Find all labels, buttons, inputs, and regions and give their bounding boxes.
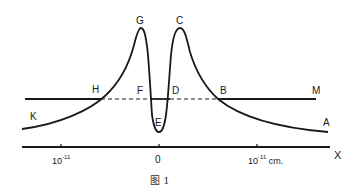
label-f: F: [137, 86, 143, 96]
label-b: B: [220, 86, 227, 96]
tick-label-zero: 0: [155, 155, 161, 165]
tick-label-right: 10-11 cm.: [248, 154, 283, 166]
figure-caption: 图 1: [150, 172, 170, 187]
tick-label-left: 10-11: [52, 154, 70, 166]
label-a: A: [323, 118, 330, 128]
label-d: D: [172, 86, 179, 96]
axis-label-x: X: [334, 150, 341, 161]
label-h: H: [92, 85, 99, 95]
label-g: G: [136, 16, 144, 26]
label-c: C: [176, 16, 183, 26]
label-m: M: [312, 86, 320, 96]
label-k: K: [30, 112, 37, 122]
potential-curve: [22, 28, 328, 132]
label-e: E: [155, 118, 162, 128]
